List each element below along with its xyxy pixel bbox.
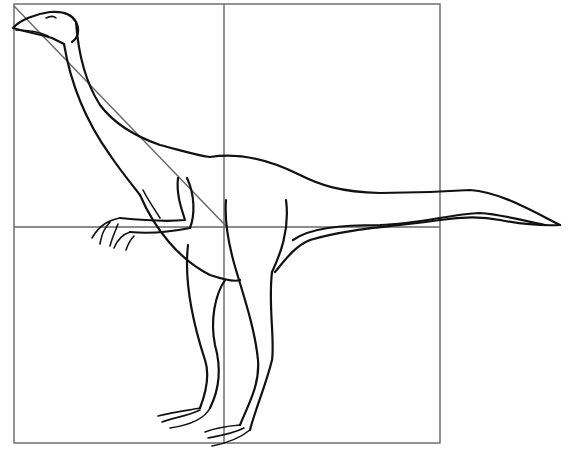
arm-crease	[143, 190, 160, 218]
grid-diagonal-guide	[14, 6, 226, 226]
back-outline	[210, 156, 560, 225]
eye	[46, 17, 56, 19]
near-leg-back	[250, 272, 273, 430]
near-leg-front	[236, 270, 258, 425]
far-foot	[158, 408, 210, 428]
hand-claws-left	[92, 218, 120, 246]
hand-claws-right	[114, 232, 134, 250]
tail-underside	[275, 217, 560, 272]
neck-back	[76, 22, 210, 157]
thigh-front	[226, 200, 236, 270]
dinosaur	[13, 12, 560, 446]
neck-front	[64, 44, 140, 195]
upper-arm	[120, 178, 185, 221]
far-leg-front	[187, 245, 207, 408]
far-leg-back	[210, 280, 225, 408]
dinosaur-drawing	[0, 0, 572, 455]
forearm	[130, 178, 193, 233]
